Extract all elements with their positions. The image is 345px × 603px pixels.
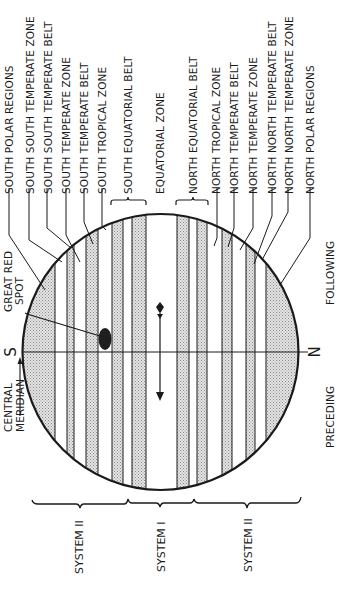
label-nntb: NORTH NORTH TEMPERATE BELT <box>266 21 278 194</box>
label-stb: SOUTH TEMPERATE BELT <box>78 62 90 194</box>
label-ntropz: NORTH TROPICAL ZONE <box>210 67 222 194</box>
label-neb: NORTH EQUATORIAL BELT <box>187 56 199 194</box>
label-stropz: SOUTH TROPICAL ZONE <box>96 67 108 194</box>
preceding-label: PRECEDING <box>324 386 336 448</box>
label-ntb: NORTH TEMPERATE BELT <box>228 62 240 194</box>
label-north-polar-regions: NORTH POLAR REGIONS <box>304 65 316 194</box>
label-ez: EQUATORIAL ZONE <box>154 92 166 194</box>
seb-brace <box>111 197 146 205</box>
north-pole-label: N <box>306 346 324 357</box>
great-red-spot-label-2: SPOT <box>13 276 25 305</box>
great-red-spot <box>99 328 112 350</box>
label-south-polar-regions: SOUTH POLAR REGIONS <box>3 65 15 194</box>
system-1-label: SYSTEM I <box>155 521 168 572</box>
central-meridian-label-1: CENTRAL <box>2 383 14 432</box>
label-nntz: NORTH NORTH TEMPERATE ZONE <box>283 16 295 194</box>
system-braces <box>32 497 301 508</box>
following-label: FOLLOWING <box>324 241 336 305</box>
neb-brace <box>176 197 208 205</box>
south-pole-label: S <box>2 347 20 357</box>
zone-labels: SOUTH POLAR REGIONS SOUTH SOUTH TEMPERAT… <box>3 16 316 194</box>
label-seb: SOUTH EQUATORIAL BELT <box>122 56 134 194</box>
label-sstz: SOUTH SOUTH TEMPERATE ZONE <box>24 16 36 194</box>
jupiter-diagram: S N CENTRAL MERIDIAN GREAT RED SPOT FOLL… <box>0 0 345 603</box>
label-stz: SOUTH TEMPERATE ZONE <box>60 57 72 194</box>
system-2-south-label: SYSTEM II <box>73 520 86 574</box>
planet-disk <box>20 200 302 500</box>
system-2-north-label: SYSTEM II <box>242 518 255 572</box>
central-meridian-label-2: MERIDIAN <box>14 379 26 432</box>
label-ntz: NORTH TEMPERATE ZONE <box>247 57 259 194</box>
label-sstb: SOUTH SOUTH TEMPERATE BELT <box>42 21 54 194</box>
